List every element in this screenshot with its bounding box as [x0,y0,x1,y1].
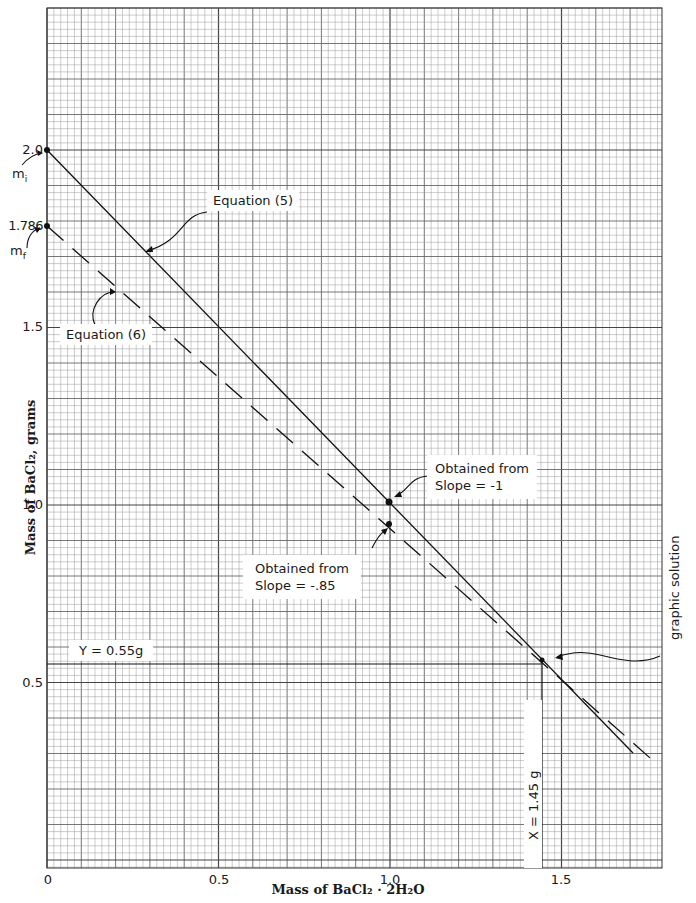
mf-label-sub: f [23,251,26,261]
point-slope-085 [386,521,392,527]
mi-label: mi [12,166,27,184]
point-mi [44,147,50,153]
equation-6-label: Equation (6) [60,324,152,345]
obtained-slope-1-line1: Obtained from [435,460,529,477]
y-tick-1-786: 1.786 [0,218,43,233]
mf-label-m: m [10,243,23,258]
plot-frame [47,8,662,868]
point-mf [44,223,50,229]
y-axis-title: Mass of BaCl₂, grams [23,378,38,578]
mf-label: mf [10,243,26,261]
chart-canvas [0,0,696,903]
y-tick-0-5: 0.5 [3,675,43,690]
arrowhead-eq5 [145,246,153,252]
mi-label-sub: i [25,174,28,184]
obtained-slope-1-label: Obtained from Slope = -1 [427,455,537,499]
arrow-eq6 [93,292,114,325]
point-intersection [540,658,545,663]
obtained-slope-085-line2: Slope = -.85 [255,577,349,594]
arrowhead-slope-1 [394,491,402,497]
y-tick-1-5: 1.5 [3,319,43,334]
equation-5-line [47,150,633,753]
mi-label-m: m [12,166,25,181]
y-solution-label: Y = 0.55g [69,640,153,661]
y-tick-2-0: 2.0 [3,142,43,157]
equation-5-label: Equation (5) [207,190,299,211]
obtained-slope-1-line2: Slope = -1 [435,477,529,494]
grid-lines [47,8,662,868]
obtained-slope-085-label: Obtained from Slope = -.85 [243,555,361,599]
equation-6-line [47,226,658,765]
graphic-solution-label: graphic solution [667,536,682,640]
arrow-slope-1 [396,476,428,496]
obtained-slope-085-line1: Obtained from [255,560,349,577]
arrow-graphic-solution [557,653,660,661]
arrowhead-slope-085 [381,528,388,535]
arrowhead-eq6 [110,288,116,295]
x-axis-title: Mass of BaCl₂ · 2H₂O [0,882,696,897]
x-solution-label: X = 1.45 g [526,771,541,840]
point-slope-1 [386,499,393,506]
